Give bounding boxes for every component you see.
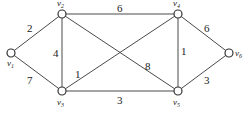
graph-canvas: 2 7 4 6 8 1 3 1 6 3 v1 v2 v3 v4 v5 v6 xyxy=(0,0,248,117)
weight-v2-v4: 6 xyxy=(117,2,123,14)
weight-v1-v3: 7 xyxy=(27,74,33,86)
label-v4: v4 xyxy=(173,0,180,9)
weight-v2-v5: 8 xyxy=(145,60,151,72)
weight-v5-v6: 3 xyxy=(204,74,210,86)
label-v2: v2 xyxy=(57,0,64,9)
label-v1: v1 xyxy=(7,58,14,69)
node-v4 xyxy=(174,10,182,18)
node-v6 xyxy=(225,49,233,57)
label-v3: v3 xyxy=(57,97,64,108)
weight-v4-v6: 6 xyxy=(204,22,210,34)
label-v5: v5 xyxy=(173,97,180,108)
weight-v1-v2: 2 xyxy=(27,22,33,34)
weight-v4-v5: 1 xyxy=(181,45,187,57)
weight-v3-v4: 1 xyxy=(75,68,81,80)
node-v5 xyxy=(174,87,182,95)
node-v1 xyxy=(7,49,15,57)
weight-v2-v3: 4 xyxy=(53,47,59,59)
weight-v3-v5: 3 xyxy=(117,94,123,106)
node-v3 xyxy=(58,87,66,95)
node-v2 xyxy=(58,10,66,18)
label-v6: v6 xyxy=(235,48,242,59)
